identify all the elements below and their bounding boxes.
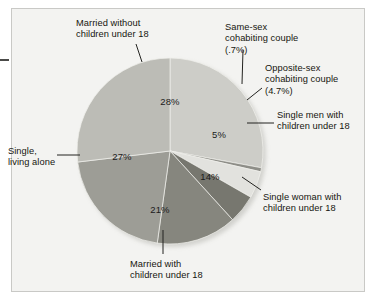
pie-chart-figure: 28% 5% 14% 21% 27% Married without child… bbox=[0, 0, 372, 300]
leader-lines bbox=[0, 0, 372, 300]
leader-married-without bbox=[136, 44, 142, 62]
leader-opposite-sex bbox=[247, 88, 262, 100]
leader-single-woman bbox=[242, 177, 261, 190]
leader-same-sex bbox=[242, 50, 243, 84]
